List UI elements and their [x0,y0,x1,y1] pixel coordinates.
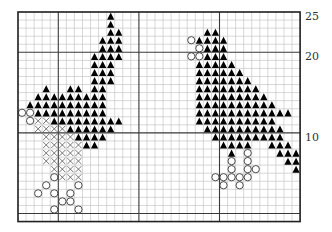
triangle-stitch-icon [75,134,82,141]
triangle-stitch-icon [35,109,42,116]
circle-stitch-icon [236,182,243,189]
circle-stitch-icon [220,182,227,189]
cross-stitch-icon [43,158,49,164]
triangle-stitch-icon [91,93,98,100]
triangle-stitch-icon [292,158,299,165]
triangle-stitch-icon [236,134,243,141]
triangle-stitch-icon [268,134,275,141]
cross-stitch-icon [51,150,57,156]
triangle-stitch-icon [244,93,251,100]
circle-stitch-icon [75,182,82,189]
triangle-stitch-icon [236,93,243,100]
triangle-stitch-icon [99,37,106,44]
triangle-stitch-icon [91,109,98,116]
triangle-stitch-icon [220,117,227,124]
triangle-stitch-icon [284,142,291,149]
triangle-stitch-icon [204,37,211,44]
cross-stitch-icon [59,166,65,172]
triangle-stitch-icon [26,101,33,108]
circle-stitch-icon [67,198,74,205]
circle-stitch-icon [244,157,251,164]
circle-stitch-icon [26,109,33,116]
triangle-stitch-icon [252,117,259,124]
cross-stitch-icon [51,142,57,148]
triangle-stitch-icon [91,142,98,149]
triangle-stitch-icon [236,125,243,132]
triangle-stitch-icon [236,101,243,108]
cross-stitch-icon [67,166,73,172]
cross-stitch-icon [43,126,49,132]
cross-stitch-icon [67,134,73,140]
triangle-stitch-icon [220,101,227,108]
triangle-stitch-icon [67,125,74,132]
triangle-stitch-icon [99,93,106,100]
triangle-stitch-icon [212,134,219,141]
triangle-stitch-icon [83,125,90,132]
triangle-stitch-icon [204,45,211,52]
cross-stitch-icon [43,142,49,148]
triangle-stitch-icon [204,61,211,68]
cross-stitch-icon [75,174,81,180]
triangle-stitch-icon [212,37,219,44]
triangle-stitch-icon [212,101,219,108]
triangle-stitch-icon [204,69,211,76]
triangle-stitch-icon [67,117,74,124]
triangle-stitch-icon [99,117,106,124]
triangle-stitch-icon [252,125,259,132]
triangle-stitch-icon [260,101,267,108]
triangle-stitch-icon [204,85,211,92]
triangle-stitch-icon [244,134,251,141]
cross-stitch-icon [59,134,65,140]
triangle-stitch-icon [59,117,66,124]
cross-stitch-icon [75,166,81,172]
triangle-stitch-icon [220,142,227,149]
triangle-stitch-icon [35,101,42,108]
triangle-stitch-icon [75,117,82,124]
triangle-stitch-icon [212,45,219,52]
triangle-stitch-icon [212,117,219,124]
triangle-stitch-icon [284,158,291,165]
triangle-stitch-icon [51,109,58,116]
triangle-stitch-icon [292,150,299,157]
triangle-stitch-icon [212,125,219,132]
triangle-stitch-icon [107,13,114,20]
circle-stitch-icon [18,109,25,116]
triangle-stitch-icon [59,93,66,100]
triangle-stitch-icon [75,109,82,116]
circle-stitch-icon [188,37,195,44]
triangle-stitch-icon [115,29,122,36]
cross-stitch-icon [51,126,57,132]
cross-stitch-icon [51,134,57,140]
triangle-stitch-icon [83,117,90,124]
triangle-stitch-icon [260,134,267,141]
triangle-stitch-icon [35,93,42,100]
triangle-stitch-icon [244,125,251,132]
circle-stitch-icon [51,174,58,181]
triangle-stitch-icon [115,45,122,52]
triangle-stitch-icon [244,142,251,149]
triangle-stitch-icon [276,150,283,157]
triangle-stitch-icon [91,61,98,68]
triangle-stitch-icon [244,109,251,116]
cross-stitch-icon [75,142,81,148]
triangle-stitch-icon [115,37,122,44]
cross-stitch-icon [43,134,49,140]
triangle-stitch-icon [220,93,227,100]
triangle-stitch-icon [196,77,203,84]
triangle-stitch-icon [236,77,243,84]
triangle-stitch-icon [59,109,66,116]
triangle-stitch-icon [292,166,299,173]
cross-stitch-icon [59,174,65,180]
triangle-stitch-icon [220,45,227,52]
triangle-stitch-icon [268,117,275,124]
triangle-stitch-icon [228,85,235,92]
triangle-stitch-icon [204,109,211,116]
triangle-stitch-icon [220,109,227,116]
triangle-stitch-icon [220,53,227,60]
triangle-stitch-icon [91,77,98,84]
triangle-stitch-icon [67,101,74,108]
triangle-stitch-icon [91,53,98,60]
triangle-stitch-icon [51,117,58,124]
row-label-20: 20 [305,51,319,62]
triangle-stitch-icon [196,101,203,108]
